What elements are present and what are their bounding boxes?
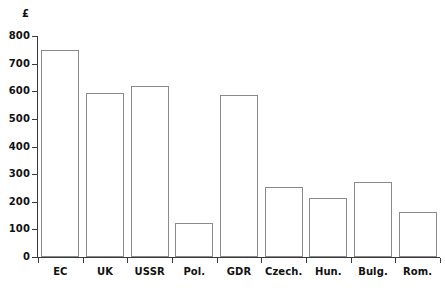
x-axis-line <box>37 257 440 258</box>
x-axis-label-rom: Rom. <box>395 266 440 278</box>
bar-chart: £ 8007006005004003002001000 ECUKUSSRPol.… <box>0 0 445 291</box>
y-axis-tick-label-wrap: 700 <box>0 59 30 69</box>
y-axis-tick-label: 800 <box>0 31 30 41</box>
y-axis-tick-label: 500 <box>0 114 30 124</box>
y-axis-tick-label-wrap: 500 <box>0 114 30 124</box>
bar-bulg <box>354 182 392 257</box>
y-axis-tick-label-wrap: 100 <box>0 224 30 234</box>
x-axis-label-hun: Hun. <box>306 266 351 278</box>
bar-ec <box>41 50 79 257</box>
x-axis-tick <box>351 258 352 263</box>
y-axis-tick-label-wrap: 800 <box>0 31 30 41</box>
y-axis-tick-label: 600 <box>0 86 30 96</box>
y-axis-tick-label-wrap: 0 <box>0 252 30 262</box>
x-axis-label-ussr: USSR <box>127 266 172 278</box>
y-axis-tick-label: 100 <box>0 224 30 234</box>
x-axis-label-czech: Czech. <box>261 266 306 278</box>
x-axis-tick <box>395 258 396 263</box>
bar-pol <box>175 223 213 257</box>
y-axis-tick-label: 300 <box>0 169 30 179</box>
y-axis-tick-label: 700 <box>0 59 30 69</box>
x-axis-label-pol: Pol. <box>172 266 217 278</box>
x-axis-label-gdr: GDR <box>217 266 262 278</box>
bar-hun <box>309 198 347 257</box>
x-axis-tick <box>440 258 441 263</box>
x-axis-tick <box>217 258 218 263</box>
y-axis-tick-label: 200 <box>0 197 30 207</box>
plot-area <box>38 36 440 257</box>
x-axis-tick <box>83 258 84 263</box>
x-axis-tick <box>261 258 262 263</box>
bar-ussr <box>131 86 169 257</box>
x-axis-tick <box>38 258 39 263</box>
y-axis-tick-label-wrap: 200 <box>0 197 30 207</box>
x-axis-label-uk: UK <box>83 266 128 278</box>
y-axis-tick-label: 400 <box>0 142 30 152</box>
y-axis-tick-label-wrap: 600 <box>0 86 30 96</box>
bar-czech <box>265 187 303 257</box>
bar-gdr <box>220 95 258 257</box>
bar-uk <box>86 93 124 257</box>
x-axis-tick <box>172 258 173 263</box>
y-axis-unit-label: £ <box>22 8 29 20</box>
y-axis-tick-label-wrap: 300 <box>0 169 30 179</box>
y-axis-tick-label: 0 <box>0 252 30 262</box>
x-axis-tick <box>127 258 128 263</box>
y-axis-tick-label-wrap: 400 <box>0 142 30 152</box>
bar-rom <box>399 212 437 257</box>
x-axis-label-bulg: Bulg. <box>351 266 396 278</box>
x-axis-label-ec: EC <box>38 266 83 278</box>
x-axis-tick <box>306 258 307 263</box>
